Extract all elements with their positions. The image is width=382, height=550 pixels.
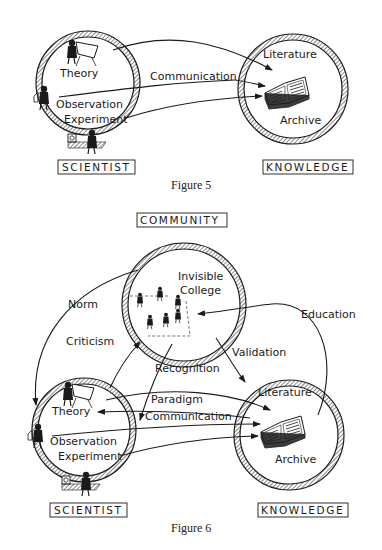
knowledge-item-literature: Literature (263, 48, 317, 61)
knowledge-item-literature-fig6: Literature (258, 386, 312, 399)
scientist-item-observation: Observation (56, 98, 123, 111)
figure-5: Theory Observation Experiment SCIENTIST … (34, 31, 353, 192)
edge-label-education: Education (301, 308, 356, 321)
figure-6-caption: Figure 6 (171, 521, 211, 535)
edge-label-recognition: Recognition (155, 362, 220, 375)
community-item-invisible: Invisible (178, 270, 224, 283)
edge-label-validation: Validation (232, 346, 286, 359)
scientist-label-fig6: SCIENTIST (54, 504, 123, 516)
scientist-item-theory-fig6: Theory (51, 405, 91, 418)
community-item-college: College (180, 284, 221, 297)
knowledge-item-archive-fig6: Archive (275, 453, 316, 466)
edge-label-paradigm: Paradigm (151, 393, 203, 406)
edge-label-communication-fig6: Communication (145, 410, 232, 423)
knowledge-label: KNOWLEDGE (266, 161, 349, 173)
scientist-item-observation-fig6: Observation (50, 435, 117, 448)
figure-6: COMMUNITY Invisible College (28, 213, 356, 535)
knowledge-label-fig6: KNOWLEDGE (261, 504, 344, 516)
community-circle (122, 243, 246, 367)
community-label: COMMUNITY (140, 214, 220, 226)
edge-label-communication: Communication (150, 70, 237, 83)
scientist-item-experiment-fig6: Experiment (58, 450, 122, 463)
diagram-canvas: Theory Observation Experiment SCIENTIST … (0, 0, 382, 550)
edge-label-norm: Norm (68, 298, 98, 311)
edge-label-criticism: Criticism (66, 335, 114, 348)
scientist-item-theory: Theory (59, 67, 99, 80)
scientist-item-experiment: Experiment (64, 113, 128, 126)
figure-5-caption: Figure 5 (171, 178, 211, 192)
knowledge-item-archive: Archive (280, 114, 321, 127)
edge-criticism (110, 342, 140, 388)
scientist-label: SCIENTIST (62, 161, 131, 173)
